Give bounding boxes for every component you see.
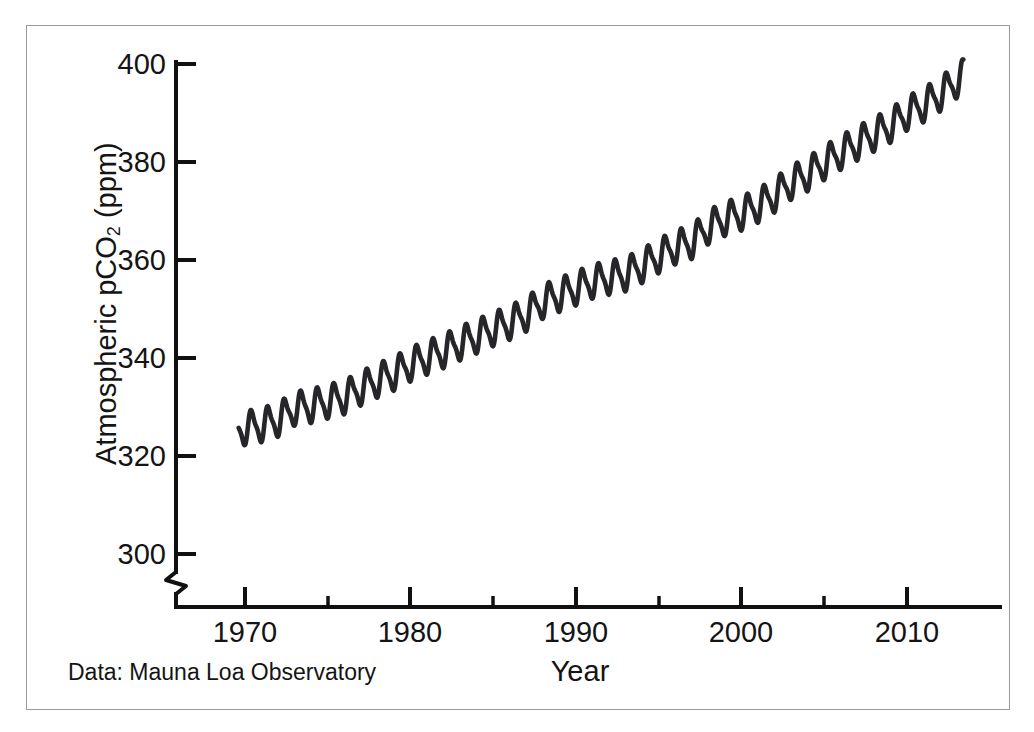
x-tick-label-1980: 1980 [350, 618, 470, 647]
x-tick-label-2000: 2000 [681, 618, 801, 647]
x-tick-label-1990: 1990 [516, 618, 636, 647]
y-axis-title-unit: (ppm) [90, 142, 122, 226]
page-scan-artifact [0, 0, 1034, 14]
figure-frame [26, 25, 1010, 710]
x-tick-label-1970: 1970 [185, 618, 305, 647]
y-axis-title-subscript: 2 [104, 226, 124, 236]
x-tick-label-2010: 2010 [847, 618, 967, 647]
source-caption: Data: Mauna Loa Observatory [68, 659, 376, 686]
y-tick-label-400: 400 [62, 50, 166, 79]
y-axis-title: Atmospheric pCO2 (ppm) [92, 142, 123, 465]
y-tick-label-300: 300 [62, 540, 166, 569]
y-axis-title-main: Atmospheric pCO [90, 236, 122, 465]
x-axis-title: Year [500, 655, 660, 688]
